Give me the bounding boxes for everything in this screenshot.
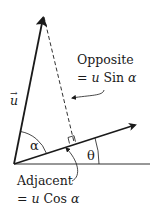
adjacent-eq-var: u [31, 191, 39, 206]
alpha-label: α [30, 138, 39, 153]
adjacent-eq-func: Cos [40, 191, 71, 206]
opposite-eq-var: u [91, 70, 99, 85]
right-angle-marker [68, 136, 76, 144]
adjacent-title: Adjacent [16, 173, 73, 188]
theta-label: θ [87, 148, 95, 163]
opposite-eq-prefix: = [77, 70, 91, 85]
opposite-eq-func: Sin [100, 70, 129, 85]
opposite-dashed-line [44, 17, 74, 142]
opposite-pointer-arrow [72, 90, 104, 98]
adjacent-eq-prefix: = [17, 191, 31, 206]
theta-angle-arc [95, 138, 99, 164]
vector-u-arrow-mark: → [10, 88, 18, 98]
opposite-title: Opposite [77, 52, 134, 67]
opposite-eq-angle: α [128, 70, 137, 85]
vector-diagram: u → α θ Opposite = u Sin α Adjacent = u … [0, 0, 156, 212]
adjacent-eq-angle: α [71, 191, 80, 206]
adjacent-equation: = u Cos α [17, 191, 80, 206]
opposite-equation: = u Sin α [77, 70, 137, 85]
